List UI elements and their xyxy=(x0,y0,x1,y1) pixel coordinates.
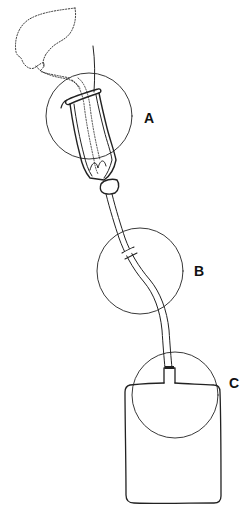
sheath-tip-fold xyxy=(90,161,106,170)
zone-c-circle xyxy=(132,352,218,438)
condom-sheath xyxy=(70,93,116,180)
body-outline-inner xyxy=(36,66,80,88)
bag-neck-cap xyxy=(165,366,174,369)
label-a: A xyxy=(144,111,154,125)
connector-collar xyxy=(100,179,118,194)
zone-a-circle xyxy=(46,73,132,159)
zone-b-circle xyxy=(97,228,183,314)
diagram-drawing xyxy=(0,0,248,516)
body-outline xyxy=(16,8,76,78)
drainage-tube-left xyxy=(106,194,165,368)
catheter-diagram: A B C xyxy=(0,0,248,516)
skin-line xyxy=(93,46,95,92)
bag-neck xyxy=(164,368,175,383)
collection-bag xyxy=(125,383,221,503)
label-b: B xyxy=(194,264,204,278)
penis-outline-right xyxy=(78,78,100,160)
label-c: C xyxy=(229,376,239,390)
sheath-ring xyxy=(66,89,101,105)
